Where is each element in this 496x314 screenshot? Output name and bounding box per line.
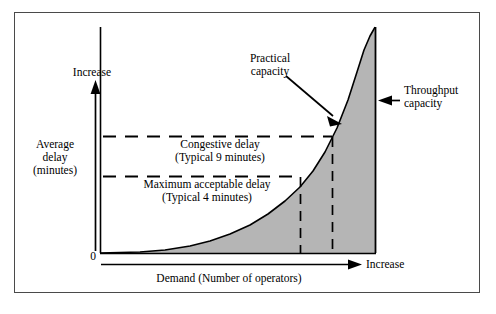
y-axis-title-line3: (minutes)	[18, 164, 92, 177]
throughput-capacity-label: Throughput capacity	[404, 84, 486, 110]
congestive-delay-label-line1: Congestive delay	[140, 138, 300, 151]
maximum-acceptable-delay-label-line2: (Typical 4 minutes)	[112, 191, 302, 204]
congestive-delay-label: Congestive delay (Typical 9 minutes)	[140, 138, 300, 164]
maximum-acceptable-delay-label-line1: Maximum acceptable delay	[112, 178, 302, 191]
practical-capacity-label-line2: capacity	[228, 65, 312, 78]
practical-capacity-label-line1: Practical	[228, 52, 312, 65]
maximum-acceptable-delay-label: Maximum acceptable delay (Typical 4 minu…	[112, 178, 302, 204]
x-axis-increase-label: Increase	[366, 258, 436, 271]
x-axis-title: Demand (Number of operators)	[104, 272, 354, 285]
y-axis-increase-label: Increase	[52, 66, 132, 79]
y-axis-title-line2: delay	[18, 151, 92, 164]
throughput-capacity-label-line1: Throughput	[404, 84, 486, 97]
practical-capacity-arrow	[286, 76, 342, 127]
y-axis-increase-arrow	[91, 80, 101, 251]
x-axis-increase-arrow	[101, 260, 362, 270]
throughput-capacity-arrow	[378, 96, 400, 106]
y-axis-title: Average delay (minutes)	[18, 138, 92, 177]
origin-tick-label: 0	[80, 250, 96, 263]
congestive-delay-label-line2: (Typical 9 minutes)	[140, 151, 300, 164]
practical-capacity-label: Practical capacity	[228, 52, 312, 78]
throughput-capacity-label-line2: capacity	[404, 97, 486, 110]
delay-vs-demand-chart: Average delay (minutes) Increase 0 Deman…	[0, 0, 496, 314]
y-axis-title-line1: Average	[18, 138, 92, 151]
